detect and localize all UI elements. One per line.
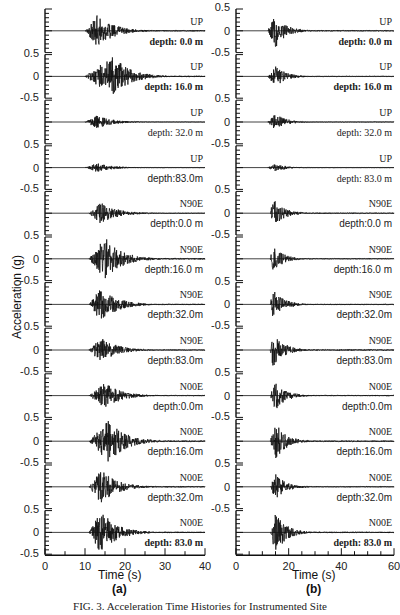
svg-text:depth:32.0m: depth:32.0m <box>336 309 392 320</box>
svg-text:depth: 83.0 m: depth: 83.0 m <box>333 537 392 548</box>
svg-text:30: 30 <box>159 560 171 572</box>
svg-text:0.5: 0.5 <box>215 183 230 195</box>
svg-text:depth: 16.0 m: depth: 16.0 m <box>333 81 392 92</box>
svg-text:depth:0.0 m: depth:0.0 m <box>339 218 392 229</box>
svg-text:depth:83.0m: depth:83.0m <box>336 355 392 366</box>
svg-text:0.5: 0.5 <box>24 47 39 59</box>
svg-text:depth: 83.0 m: depth: 83.0 m <box>144 537 203 548</box>
svg-text:depth:0.0m: depth:0.0m <box>342 401 392 412</box>
svg-text:depth: 0.0 m: depth: 0.0 m <box>338 36 392 47</box>
panel-a: UPdepth: 0.0 m0.50-0.5UPdepth: 16.0 mUPd… <box>20 9 211 572</box>
svg-text:depth: 16.0 m: depth: 16.0 m <box>144 81 203 92</box>
svg-text:0: 0 <box>33 435 39 447</box>
svg-text:N00E: N00E <box>180 472 203 483</box>
panel-b: 0.50-0.5UPdepth: 0.0 mUPdepth: 16.0 m0.5… <box>211 1 400 572</box>
svg-text:10: 10 <box>79 560 91 572</box>
svg-text:60: 60 <box>388 560 400 572</box>
svg-text:0: 0 <box>33 253 39 265</box>
svg-text:-0.5: -0.5 <box>20 547 39 559</box>
svg-text:-0.5: -0.5 <box>211 137 230 149</box>
svg-text:depth:0.0m: depth:0.0m <box>153 401 203 412</box>
svg-text:0: 0 <box>224 116 230 128</box>
y-axis-title: Acceleration (g) <box>10 252 24 342</box>
svg-text:N00E: N00E <box>369 472 392 483</box>
svg-text:0: 0 <box>224 390 230 402</box>
svg-text:N00E: N00E <box>369 381 392 392</box>
svg-text:-0.5: -0.5 <box>20 365 39 377</box>
svg-text:-0.5: -0.5 <box>211 319 230 331</box>
svg-text:N90E: N90E <box>180 289 203 300</box>
svg-text:0.5: 0.5 <box>215 1 230 13</box>
svg-text:depth:83.0m: depth:83.0m <box>147 355 203 366</box>
svg-text:UP: UP <box>379 61 392 72</box>
svg-text:-0.5: -0.5 <box>20 91 39 103</box>
svg-text:N90E: N90E <box>180 335 203 346</box>
svg-text:0: 0 <box>33 344 39 356</box>
svg-text:depth: 0.0 m: depth: 0.0 m <box>149 36 203 47</box>
svg-text:0: 0 <box>33 162 39 174</box>
svg-text:N00E: N00E <box>369 426 392 437</box>
svg-text:-0.5: -0.5 <box>211 410 230 422</box>
svg-text:0: 0 <box>224 298 230 310</box>
svg-text:0: 0 <box>233 560 239 572</box>
svg-text:depth: 32.0 m: depth: 32.0 m <box>148 127 203 138</box>
svg-text:0.5: 0.5 <box>215 92 230 104</box>
svg-text:40: 40 <box>335 560 347 572</box>
svg-text:UP: UP <box>190 107 203 118</box>
figure-caption: FIG. 3. Acceleration Time Histories for … <box>0 600 400 612</box>
svg-text:depth:0.0 m: depth:0.0 m <box>150 218 203 229</box>
svg-text:N90E: N90E <box>369 335 392 346</box>
svg-text:0.5: 0.5 <box>215 366 230 378</box>
x-axis-title-b: Time (s) <box>292 568 336 582</box>
svg-text:0.5: 0.5 <box>24 229 39 241</box>
svg-text:UP: UP <box>379 16 392 27</box>
x-axis-title-a: Time (s) <box>98 568 142 582</box>
svg-text:depth:32.0m: depth:32.0m <box>147 309 203 320</box>
svg-text:N90E: N90E <box>180 198 203 209</box>
svg-text:depth: 83.0 m: depth: 83.0 m <box>337 173 392 184</box>
svg-text:depth:83.0m: depth:83.0m <box>147 173 203 184</box>
panel-label-a: (a) <box>112 582 127 596</box>
svg-text:0.5: 0.5 <box>24 320 39 332</box>
svg-text:-0.5: -0.5 <box>211 502 230 514</box>
svg-text:UP: UP <box>379 107 392 118</box>
svg-text:0.5: 0.5 <box>24 411 39 423</box>
svg-text:UP: UP <box>379 153 392 164</box>
svg-text:depth: 32.0 m: depth: 32.0 m <box>337 127 392 138</box>
svg-text:N90E: N90E <box>369 289 392 300</box>
svg-text:0.5: 0.5 <box>215 457 230 469</box>
svg-text:0.5: 0.5 <box>24 503 39 515</box>
svg-text:UP: UP <box>190 16 203 27</box>
svg-text:0.5: 0.5 <box>215 275 230 287</box>
svg-text:40: 40 <box>199 560 211 572</box>
svg-text:-0.5: -0.5 <box>20 456 39 468</box>
svg-text:depth:16.0m: depth:16.0m <box>147 446 203 457</box>
svg-text:depth:16.0m: depth:16.0m <box>336 446 392 457</box>
svg-text:0: 0 <box>224 481 230 493</box>
svg-text:0: 0 <box>224 207 230 219</box>
svg-text:0: 0 <box>33 70 39 82</box>
panel-label-b: (b) <box>306 582 321 596</box>
svg-text:-0.5: -0.5 <box>211 228 230 240</box>
svg-text:depth:16.0 m: depth:16.0 m <box>145 264 203 275</box>
svg-text:depth:16.0 m: depth:16.0 m <box>334 264 392 275</box>
svg-text:UP: UP <box>190 153 203 164</box>
svg-text:0: 0 <box>42 560 48 572</box>
figure: UPdepth: 0.0 m0.50-0.5UPdepth: 16.0 mUPd… <box>0 0 400 615</box>
svg-text:0: 0 <box>224 25 230 37</box>
svg-text:0: 0 <box>33 526 39 538</box>
svg-text:N00E: N00E <box>369 517 392 528</box>
svg-text:UP: UP <box>190 61 203 72</box>
svg-text:-0.5: -0.5 <box>211 46 230 58</box>
svg-text:depth:32.0m: depth:32.0m <box>336 492 392 503</box>
svg-text:N90E: N90E <box>369 244 392 255</box>
svg-text:-0.5: -0.5 <box>20 182 39 194</box>
svg-text:depth:32.0m: depth:32.0m <box>147 492 203 503</box>
svg-text:N90E: N90E <box>180 244 203 255</box>
svg-text:N00E: N00E <box>180 517 203 528</box>
svg-text:N00E: N00E <box>180 426 203 437</box>
svg-text:N90E: N90E <box>369 198 392 209</box>
svg-text:N00E: N00E <box>180 381 203 392</box>
svg-text:0.5: 0.5 <box>24 138 39 150</box>
